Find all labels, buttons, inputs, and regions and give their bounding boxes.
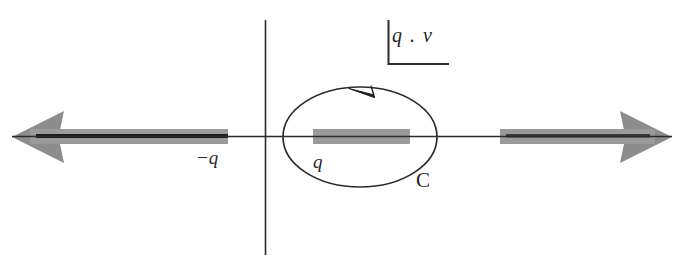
label-pole-positive-q: q: [313, 152, 323, 171]
figure-root: −q q C q . v: [0, 0, 680, 267]
label-pole-negative-q: −q: [196, 148, 218, 167]
contour-diagram-svg: [0, 0, 680, 267]
label-q-dot-v: q . v: [392, 25, 433, 45]
label-contour-c: C: [416, 170, 430, 191]
